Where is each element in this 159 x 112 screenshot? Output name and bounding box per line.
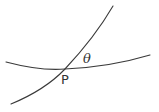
flat-curve (6, 55, 150, 69)
point-p-label: P (61, 72, 69, 87)
angle-theta-label: θ (83, 51, 91, 66)
diagram-canvas: θ P (0, 0, 159, 112)
steep-curve (11, 6, 113, 104)
